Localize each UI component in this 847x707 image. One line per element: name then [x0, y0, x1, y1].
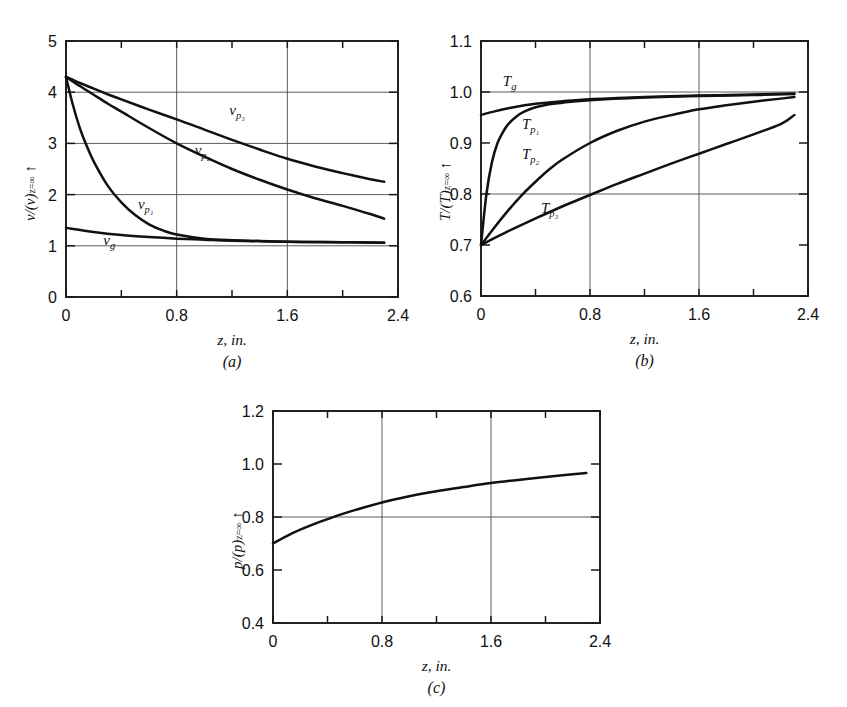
y-axis-title-text: T/(T): [437, 190, 453, 221]
curve-p: [273, 473, 586, 543]
chart-panel-a: 01234500.81.62.4z, in.(a)vp₃vp₂vp₁vgv/(v…: [8, 27, 424, 375]
x-tick-label: 2.4: [797, 306, 819, 323]
y-axis-arrow-icon: ↑: [437, 161, 453, 172]
x-tick-label: 1.6: [480, 633, 502, 650]
y-tick-label: 1.1: [450, 33, 472, 50]
x-tick-label: 1.6: [688, 306, 710, 323]
y-axis-title-text: p/(p): [229, 540, 245, 569]
x-axis-title: z, in.: [216, 331, 247, 348]
y-tick-label: 0.6: [450, 288, 472, 305]
curve-v_p1: [66, 77, 384, 243]
y-tick-label: 4: [48, 84, 57, 101]
plot-c: 0.40.60.81.01.200.81.62.4z, in.(c): [215, 397, 626, 701]
curve-T_p3: [481, 115, 794, 245]
y-axis-title-subscript: z=∞: [233, 523, 244, 540]
y-tick-label: 1: [48, 238, 57, 255]
panel-label: (b): [635, 352, 654, 370]
x-tick-label: 0.8: [579, 306, 601, 323]
y-tick-label: 0.9: [450, 135, 472, 152]
y-tick-label: 3: [48, 135, 57, 152]
curve-label-T_p3: Tp₃: [541, 200, 559, 219]
y-tick-label: 0: [48, 289, 57, 306]
curve-v_p2: [66, 77, 384, 219]
curve-label-v_p2: vp₂: [195, 142, 211, 161]
y-tick-label: 0.4: [242, 615, 264, 632]
panel-label: (c): [428, 679, 446, 697]
plot-a: 01234500.81.62.4z, in.(a)vp₃vp₂vp₁vg: [8, 27, 424, 375]
y-tick-label: 5: [48, 33, 57, 50]
panel-label: (a): [223, 353, 242, 371]
y-axis-title-subscript: z=∞: [26, 176, 37, 193]
y-axis-title-subscript: z=∞: [441, 172, 452, 189]
x-tick-label: 0.8: [166, 307, 188, 324]
x-axis-title: z, in.: [421, 657, 452, 674]
x-tick-label: 0.8: [371, 633, 393, 650]
y-axis-arrow-icon: ↑: [22, 165, 38, 176]
x-tick-label: 0: [477, 306, 486, 323]
curve-label-v_p3: vp₃: [229, 102, 245, 121]
x-tick-label: 2.4: [387, 307, 409, 324]
curve-label-T_g: Tg: [503, 73, 517, 92]
y-tick-label: 0.7: [450, 237, 472, 254]
chart-panel-c: 0.40.60.81.01.200.81.62.4z, in.(c)p/(p)z…: [215, 397, 626, 701]
x-axis-title: z, in.: [629, 330, 660, 347]
x-tick-label: 0: [62, 307, 71, 324]
curve-label-T_p2: Tp₂: [522, 146, 540, 165]
x-tick-label: 2.4: [589, 633, 611, 650]
y-axis-title-text: v/(v): [22, 194, 38, 221]
curve-label-T_p1: Tp₁: [522, 116, 539, 135]
y-axis-arrow-icon: ↑: [229, 511, 245, 522]
x-tick-label: 1.6: [276, 307, 298, 324]
plot-frame: [481, 41, 808, 296]
chart-panel-b: 0.60.70.80.91.01.100.81.62.4z, in.(b)TgT…: [423, 27, 834, 374]
y-tick-label: 1.2: [242, 403, 264, 420]
plot-b: 0.60.70.80.91.01.100.81.62.4z, in.(b)TgT…: [423, 27, 834, 374]
y-tick-label: 2: [48, 187, 57, 204]
x-tick-label: 0: [269, 633, 278, 650]
y-tick-label: 1.0: [242, 456, 264, 473]
curve-label-v_p1: vp₁: [138, 196, 154, 215]
y-tick-label: 1.0: [450, 84, 472, 101]
